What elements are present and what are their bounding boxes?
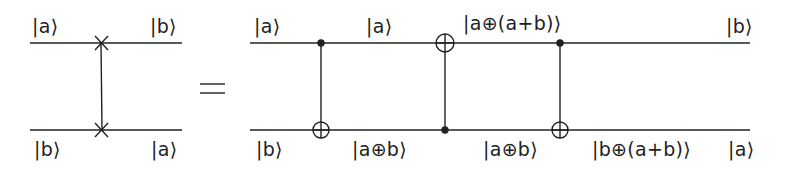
equals-sign — [200, 84, 225, 93]
right-bottom-label-5: |a⟩ — [728, 140, 754, 159]
left-bottom-output-label: |a⟩ — [151, 140, 177, 159]
right-bottom-label-2: |a⊕b⟩ — [352, 140, 407, 159]
right-top-label-2: |a⟩ — [366, 17, 392, 36]
right-bottom-label-1: |b⟩ — [256, 140, 283, 159]
right-top-label-3: |a⊕(a+b)⟩ — [463, 14, 562, 33]
cnot-gate-3 — [552, 40, 568, 138]
right-top-label-1: |a⟩ — [254, 17, 280, 36]
left-top-input-label: |a⟩ — [32, 17, 58, 36]
control-dot-icon — [557, 40, 563, 46]
left-top-output-label: |b⟩ — [150, 17, 177, 36]
right-bottom-label-3: |a⊕b⟩ — [483, 140, 538, 159]
right-top-label-4: |b⟩ — [726, 17, 753, 36]
swap-equivalence-diagram: |a⟩ |b⟩ |b⟩ |a⟩ |a⟩ |a⟩ |a⊕(a+b)⟩ |b⟩ |b… — [0, 0, 789, 170]
left-bottom-input-label: |b⟩ — [34, 140, 61, 159]
cnot-gate-1 — [313, 40, 329, 138]
right-bottom-label-4: |b⊕(a+b)⟩ — [592, 140, 691, 159]
control-dot-icon — [442, 127, 448, 133]
control-dot-icon — [318, 40, 324, 46]
swap-connector — [101, 43, 102, 130]
cnot-gate-2 — [436, 34, 454, 133]
